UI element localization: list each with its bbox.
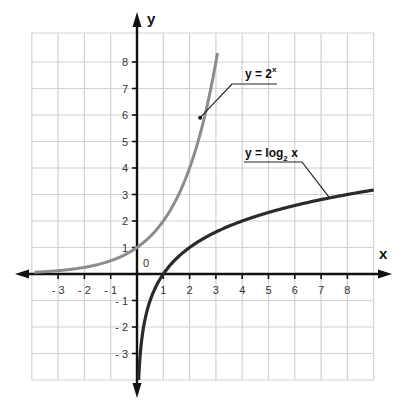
- x-tick-label: 3: [213, 284, 219, 296]
- grid-lines: [32, 33, 374, 380]
- tick-labels: - 3- 2- 112345678- 3- 2- 1123456780: [52, 56, 351, 360]
- x-tick-label: 7: [318, 284, 324, 296]
- y-axis-label: y: [147, 10, 156, 27]
- x-tick-label: 1: [160, 284, 166, 296]
- y-tick-label: 5: [122, 136, 128, 148]
- y-tick-label: - 3: [115, 348, 128, 360]
- y-axis-arrow-down-icon: [133, 383, 142, 398]
- y-tick-label: 8: [122, 56, 128, 68]
- label-logarithm: y = log2 x: [245, 146, 298, 163]
- curves: [34, 53, 373, 380]
- y-axis-arrow-up-icon: [133, 12, 142, 27]
- y-tick-label: 1: [122, 242, 128, 254]
- x-axis-label: x: [379, 245, 388, 262]
- x-tick-label: 8: [344, 284, 350, 296]
- x-tick-label: - 2: [78, 284, 91, 296]
- x-axis-arrow-left-icon: [15, 270, 29, 279]
- y-tick-label: - 2: [115, 321, 128, 333]
- annotation-point-exponential: [198, 116, 202, 120]
- x-tick-label: 5: [265, 284, 271, 296]
- x-tick-label: 6: [292, 284, 298, 296]
- y-tick-label: 6: [122, 109, 128, 121]
- axes: xy: [15, 10, 392, 398]
- x-tick-label: 4: [239, 284, 245, 296]
- curve-labels: y = 2xy = log2 x: [198, 65, 329, 197]
- x-tick-label: 2: [187, 284, 193, 296]
- y-tick-label: 7: [122, 83, 128, 95]
- y-tick-label: 4: [122, 162, 128, 174]
- origin-label: 0: [143, 257, 149, 269]
- y-tick-label: - 1: [115, 295, 128, 307]
- x-axis-arrow-right-icon: [378, 270, 392, 279]
- graph-2x-and-log2x: xy - 3- 2- 112345678- 3- 2- 1123456780 y…: [0, 0, 404, 412]
- label-exponential: y = 2x: [245, 65, 277, 81]
- y-tick-label: 2: [122, 215, 128, 227]
- y-tick-label: 3: [122, 189, 128, 201]
- curve-logarithm: [139, 190, 374, 380]
- leader-line-logarithm: [244, 162, 329, 197]
- x-tick-label: - 3: [52, 284, 65, 296]
